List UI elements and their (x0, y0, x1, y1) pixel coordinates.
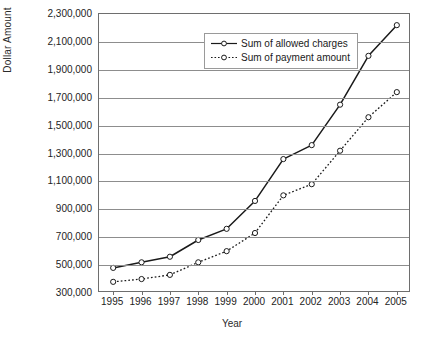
x-axis-tick-mark (142, 291, 143, 295)
gridline (99, 154, 409, 155)
x-axis-tick-label: 2002 (300, 296, 322, 307)
x-axis-tick-label: 1998 (186, 296, 208, 307)
x-axis-tick-mark (397, 291, 398, 295)
data-point-marker (394, 90, 399, 95)
data-point-marker (111, 279, 116, 284)
x-axis-tick-label: 1999 (215, 296, 237, 307)
data-point-marker (252, 198, 257, 203)
data-point-marker (337, 102, 342, 107)
legend-label: Sum of payment amount (241, 52, 350, 63)
data-point-marker (167, 272, 172, 277)
x-axis-tick-mark (170, 291, 171, 295)
gridline (99, 237, 409, 238)
y-axis-tick-labels: 300,000500,000700,000900,0001,100,0001,3… (12, 0, 92, 354)
data-point-marker (139, 276, 144, 281)
x-axis-title: Year (0, 318, 422, 329)
data-point-marker (224, 226, 229, 231)
x-axis-tick-mark (255, 291, 256, 295)
y-axis-tick-label: 900,000 (16, 203, 92, 214)
data-point-marker (309, 143, 314, 148)
data-point-marker (167, 254, 172, 259)
x-axis-tick-mark (312, 291, 313, 295)
data-point-marker (366, 115, 371, 120)
data-point-marker (394, 23, 399, 28)
gridline (99, 209, 409, 210)
data-point-marker (281, 193, 286, 198)
x-axis-tick-mark (340, 291, 341, 295)
x-axis-tick-mark (283, 291, 284, 295)
gridline (99, 126, 409, 127)
data-point-marker (281, 156, 286, 161)
legend-item-allowed-charges: Sum of allowed charges (211, 37, 350, 50)
y-axis-tick-label: 500,000 (16, 259, 92, 270)
x-axis-tick-label: 2001 (271, 296, 293, 307)
data-point-marker (224, 249, 229, 254)
line-chart: Dollar Amount 300,000500,000700,000900,0… (0, 0, 422, 354)
data-point-marker (252, 230, 257, 235)
y-axis-tick-label: 1,900,000 (16, 63, 92, 74)
gridline (99, 265, 409, 266)
x-axis-tick-mark (368, 291, 369, 295)
x-axis-tick-label: 2000 (243, 296, 265, 307)
y-axis-tick-label: 700,000 (16, 231, 92, 242)
x-axis-tick-mark (227, 291, 228, 295)
x-axis-tick-label: 1996 (129, 296, 151, 307)
x-axis-tick-label: 2003 (328, 296, 350, 307)
gridline (99, 70, 409, 71)
legend-item-payment-amount: Sum of payment amount (211, 51, 350, 64)
y-axis-tick-label: 1,700,000 (16, 91, 92, 102)
x-axis-tick-mark (113, 291, 114, 295)
series-line-1 (113, 92, 397, 282)
y-axis-tick-label: 1,100,000 (16, 175, 92, 186)
gridline (99, 181, 409, 182)
legend-dotted-line-icon (211, 52, 237, 63)
y-axis-tick-label: 1,500,000 (16, 119, 92, 130)
x-axis-tick-mark (198, 291, 199, 295)
y-axis-tick-label: 1,300,000 (16, 147, 92, 158)
y-axis-tick-label: 300,000 (16, 287, 92, 298)
x-axis-tick-label: 2004 (356, 296, 378, 307)
chart-legend: Sum of allowed charges Sum of payment am… (204, 33, 358, 69)
data-point-marker (366, 53, 371, 58)
y-axis-tick-label: 2,300,000 (16, 8, 92, 19)
y-axis-tick-label: 2,100,000 (16, 35, 92, 46)
gridline (99, 98, 409, 99)
x-axis-tick-label: 2005 (385, 296, 407, 307)
x-axis-tick-label: 1995 (101, 296, 123, 307)
legend-label: Sum of allowed charges (241, 38, 348, 49)
plot-area: Sum of allowed charges Sum of payment am… (98, 13, 410, 292)
x-axis-tick-label: 1997 (158, 296, 180, 307)
legend-solid-line-icon (211, 38, 237, 49)
